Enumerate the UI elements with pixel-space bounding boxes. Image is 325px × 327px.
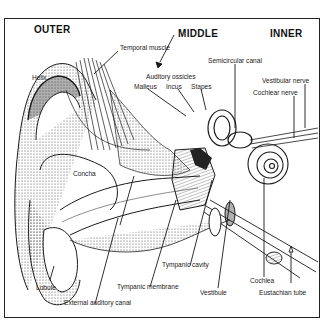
label-tympanic-cavity: Tympanic cavity bbox=[162, 262, 209, 269]
label-stapes: Stapes bbox=[191, 84, 212, 91]
vestibule-shape bbox=[209, 208, 221, 236]
label-concha: Concha bbox=[73, 171, 96, 178]
label-lobule: Lobule bbox=[36, 285, 56, 292]
label-eustachian-tube: Eustachian tube bbox=[259, 290, 306, 297]
section-outer: OUTER bbox=[34, 24, 71, 35]
auricle bbox=[15, 64, 118, 305]
label-cochlea: Cochlea bbox=[250, 278, 274, 285]
label-external-auditory-canal: External auditory canal bbox=[64, 300, 131, 307]
label-tympanic-membrane: Tympanic membrane bbox=[117, 284, 179, 291]
label-helix: Helix bbox=[32, 75, 47, 82]
label-temporal-muscle: Temporal muscle bbox=[120, 45, 170, 52]
label-incus: Incus bbox=[166, 84, 182, 91]
label-auditory-ossicles: Auditory ossicles bbox=[146, 74, 195, 81]
semicircular-canals bbox=[208, 110, 252, 148]
label-vestibule: Vestibule bbox=[200, 290, 227, 297]
label-semicircular-canal: Semicircular canal bbox=[208, 58, 262, 65]
label-cochlear-nerve: Cochlear nerve bbox=[253, 90, 298, 97]
cochlea-shape bbox=[248, 144, 288, 184]
section-inner: INNER bbox=[270, 28, 303, 39]
label-malleus: Malleus bbox=[134, 84, 157, 91]
label-vestibular-nerve: Vestibular nerve bbox=[262, 78, 309, 85]
section-middle: MIDDLE bbox=[178, 28, 218, 39]
